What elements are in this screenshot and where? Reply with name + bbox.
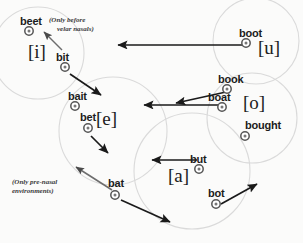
ipa-symbol-o: [o] [243, 93, 265, 112]
word-label-but: but [190, 154, 207, 165]
word-label-book: book [218, 74, 243, 85]
arrow-bet-to-bat [91, 136, 108, 153]
word-label-bet: bet [80, 112, 96, 123]
ipa-symbol-e: [e] [96, 109, 117, 128]
dot-bought[interactable] [241, 132, 249, 140]
word-label-beet: beet [20, 16, 42, 27]
annotation-pre-nasal: (Only pre-nasal environments) [12, 178, 57, 196]
arrow-bat-to-nasal [76, 167, 112, 190]
word-label-bat: bat [108, 178, 124, 189]
ipa-symbol-u: [u] [258, 38, 280, 57]
dot-boat[interactable] [218, 103, 226, 111]
dot-bait[interactable] [71, 102, 79, 110]
vowel-circle-o [207, 73, 297, 163]
annotation-velar-nasal-line2: velar nasals) [49, 25, 94, 34]
word-label-bit: bit [56, 52, 69, 63]
ipa-symbol-a: [a] [168, 166, 189, 185]
shift-arrows [70, 45, 257, 222]
ipa-symbol-i: [i] [28, 42, 46, 61]
dot-bit[interactable] [61, 63, 69, 71]
arrow-bot-to-bought [221, 184, 257, 204]
dot-bat[interactable] [111, 191, 119, 199]
word-label-bait: bait [68, 91, 87, 102]
word-label-boat: boat [208, 92, 230, 103]
dot-boot[interactable] [242, 39, 250, 47]
vowel-circle-a [134, 113, 250, 229]
dot-bet[interactable] [84, 124, 92, 132]
annotation-pre-nasal-line2: environments) [12, 187, 57, 196]
annotation-pre-nasal-line1: (Only pre-nasal [12, 178, 57, 187]
arrow-bat-to-low [121, 200, 170, 222]
vowel-circle-u [213, 0, 299, 84]
word-label-bot: bot [208, 188, 225, 199]
annotation-velar-nasal-line1: (Only before [49, 16, 94, 25]
annotation-velar-nasal: (Only before velar nasals) [49, 16, 94, 34]
arrow-bit-to-beet [44, 32, 62, 50]
word-label-bought: bought [245, 120, 281, 131]
dot-bot[interactable] [212, 200, 220, 208]
dot-beet[interactable] [25, 27, 33, 35]
dot-but[interactable] [195, 165, 203, 173]
